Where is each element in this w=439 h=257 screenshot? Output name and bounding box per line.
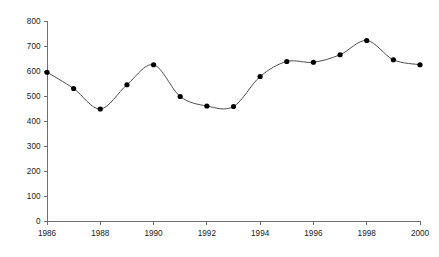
data-point-marker — [391, 57, 396, 62]
x-axis-tick-label: 1986 — [38, 229, 57, 238]
data-point-marker — [364, 38, 369, 43]
y-axis-tick-label: 700 — [27, 42, 41, 51]
chart-canvas: 0100200300400500600700800 19861988199019… — [0, 0, 439, 257]
data-point-marker — [231, 104, 236, 109]
y-axis-tick-label: 400 — [27, 117, 41, 126]
y-axis-tick-label: 100 — [27, 192, 41, 201]
data-point-marker — [311, 60, 316, 65]
data-point-marker — [204, 103, 209, 108]
data-point-marker — [124, 82, 129, 87]
x-axis-tick-label: 1994 — [251, 229, 270, 238]
chart-background — [0, 0, 439, 257]
y-axis-tick-label: 0 — [36, 217, 41, 226]
y-axis-tick-label: 300 — [27, 142, 41, 151]
data-point-marker — [258, 74, 263, 79]
x-axis-tick-label: 1992 — [198, 229, 217, 238]
data-point-marker — [98, 106, 103, 111]
data-point-marker — [178, 94, 183, 99]
y-axis-tick-label: 800 — [27, 17, 41, 26]
y-axis-tick-label: 200 — [27, 167, 41, 176]
data-point-marker — [417, 62, 422, 67]
data-point-marker — [284, 59, 289, 64]
data-point-marker — [44, 70, 49, 75]
x-axis-tick-label: 1996 — [304, 229, 323, 238]
x-axis-tick-label: 1988 — [91, 229, 110, 238]
data-point-marker — [151, 62, 156, 67]
y-axis-tick-label: 500 — [27, 92, 41, 101]
data-point-marker — [337, 52, 342, 57]
y-axis-tick-label: 600 — [27, 67, 41, 76]
x-axis-tick-label: 2000 — [411, 229, 430, 238]
x-axis-tick-label: 1990 — [144, 229, 163, 238]
x-axis-tick-label: 1998 — [358, 229, 377, 238]
line-chart: 0100200300400500600700800 19861988199019… — [0, 0, 439, 257]
data-point-marker — [71, 86, 76, 91]
